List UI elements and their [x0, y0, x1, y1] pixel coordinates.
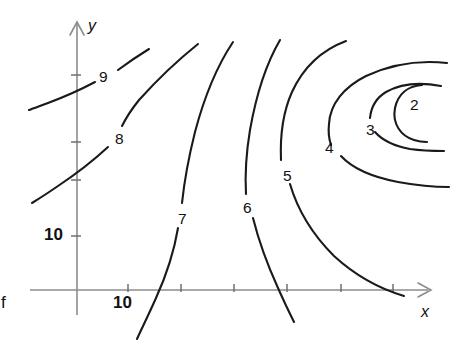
margin-text: f	[1, 294, 6, 311]
contour-label-7: 7	[178, 211, 187, 227]
axes-group	[30, 22, 431, 315]
y-axis-label: y	[88, 18, 96, 34]
contour-curves	[29, 40, 449, 339]
contour-curve-3b	[375, 132, 444, 151]
contour-curve-4b	[341, 156, 449, 187]
contour-label-5: 5	[283, 168, 292, 184]
contour-label-4: 4	[325, 140, 334, 156]
contour-curve-4a	[329, 62, 447, 145]
contour-label-8: 8	[115, 131, 124, 147]
contour-label-2: 2	[410, 97, 419, 113]
contour-curve-5b	[290, 184, 404, 296]
plot-canvas	[0, 0, 451, 353]
x-axis-label: x	[421, 304, 429, 320]
contour-curve-6a	[246, 40, 280, 194]
contour-curve-7b	[137, 228, 178, 339]
x-axis-tick-label-10: 10	[113, 294, 132, 311]
contour-curve-9b	[29, 82, 95, 110]
y-axis-ticks	[71, 75, 81, 236]
contour-label-3: 3	[366, 122, 375, 138]
contour-plot-figure: x y 10 10 2 3 4 5 6 7 8 9 f	[0, 0, 451, 353]
contour-curve-7a	[182, 42, 233, 203]
contour-label-9: 9	[99, 69, 108, 85]
contour-curve-2	[394, 85, 427, 142]
contour-curve-9a	[118, 49, 149, 70]
contour-label-6: 6	[243, 200, 252, 216]
contour-curve-6b	[253, 218, 294, 322]
y-axis-tick-label-10: 10	[44, 226, 63, 243]
contour-curve-8a	[122, 44, 198, 126]
contour-curve-3a	[370, 84, 441, 118]
contour-curve-8b	[32, 147, 108, 203]
